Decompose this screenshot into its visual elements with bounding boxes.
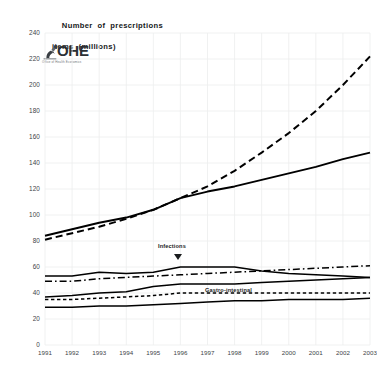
y-axis-tick-0: 0 (14, 341, 40, 348)
y-axis-tick-100: 100 (14, 211, 40, 218)
x-axis-tick-1996: 1996 (173, 349, 187, 356)
y-axis-tick-120: 120 (14, 185, 40, 192)
title-line-1: Number of prescriptions (62, 21, 163, 30)
data-series-layer (45, 33, 370, 345)
series-line-6 (45, 298, 370, 307)
x-axis-tick-1998: 1998 (228, 349, 242, 356)
x-axis-tick-1991: 1991 (38, 349, 52, 356)
annotation-arrow-icon (174, 254, 182, 260)
y-axis-labels: 020406080100120140160180200220240 (8, 33, 40, 345)
x-axis-tick-2003: 2003 (363, 349, 377, 356)
y-axis-tick-240: 240 (14, 29, 40, 36)
x-axis-tick-1997: 1997 (201, 349, 215, 356)
annotation-gastro-intestinal: Gastro-intestinal (205, 287, 252, 293)
x-axis-tick-1994: 1994 (119, 349, 133, 356)
x-axis-tick-1993: 1993 (92, 349, 106, 356)
y-axis-tick-220: 220 (14, 55, 40, 62)
x-axis-tick-2001: 2001 (309, 349, 323, 356)
y-axis-tick-180: 180 (14, 107, 40, 114)
annotation-infections: Infections (158, 243, 186, 249)
series-line-2 (45, 267, 370, 277)
x-axis-tick-1999: 1999 (255, 349, 269, 356)
series-line-0 (45, 153, 370, 236)
y-axis-tick-40: 40 (14, 289, 40, 296)
series-line-1 (45, 56, 370, 239)
x-axis-tick-1995: 1995 (146, 349, 160, 356)
y-axis-tick-80: 80 (14, 237, 40, 244)
x-axis-tick-2002: 2002 (336, 349, 350, 356)
x-axis-tick-1992: 1992 (65, 349, 79, 356)
x-axis-labels: 1991199219931994199519961997199819992000… (45, 349, 370, 363)
y-axis-tick-20: 20 (14, 315, 40, 322)
plot-area (45, 33, 370, 345)
y-axis-tick-60: 60 (14, 263, 40, 270)
y-axis-tick-200: 200 (14, 81, 40, 88)
y-axis-tick-140: 140 (14, 159, 40, 166)
y-axis-tick-160: 160 (14, 133, 40, 140)
x-axis-tick-2000: 2000 (282, 349, 296, 356)
